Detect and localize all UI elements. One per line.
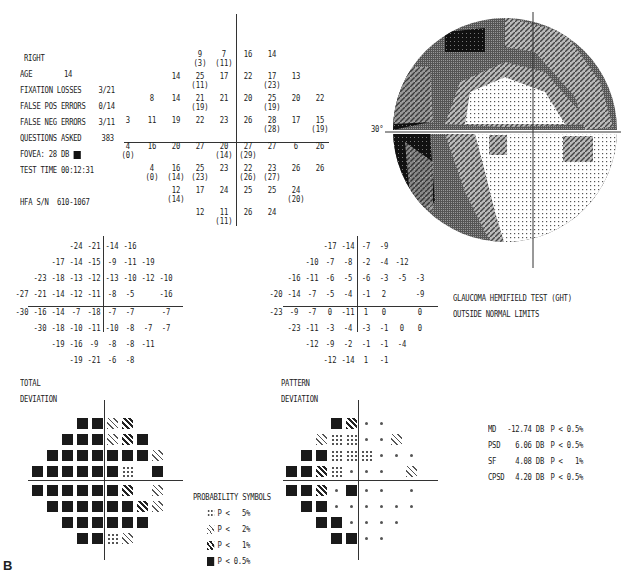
threshold-cell: 27	[191, 142, 209, 151]
probability-symbol	[77, 434, 88, 445]
deviation-cell: -7	[157, 308, 175, 317]
deviation-cell: -7	[321, 258, 339, 267]
deviation-cell: -30	[31, 324, 49, 333]
probability-symbol	[350, 521, 353, 524]
threshold-cell: 22(26)	[239, 164, 257, 181]
threshold-cell: 20(14)	[215, 142, 233, 159]
probability-symbol	[62, 501, 73, 512]
legend-item: P < 2%	[207, 524, 274, 540]
probability-symbol	[122, 485, 133, 496]
threshold-cell: 13	[287, 72, 305, 81]
index-probability: P < 0.5%	[550, 424, 583, 435]
threshold-cell: 26	[311, 164, 329, 173]
threshold-cell: 25(11)	[191, 72, 209, 89]
probability-symbol	[122, 434, 133, 445]
deviation-cell: -17	[321, 242, 339, 251]
threshold-cell: 25	[239, 186, 257, 195]
threshold-cell: 17	[215, 72, 233, 81]
probability-symbol	[365, 521, 368, 524]
deviation-cell: -8	[339, 258, 357, 267]
probability-symbol	[92, 434, 103, 445]
pd-horizontal-axis	[283, 306, 438, 307]
probability-symbol	[380, 521, 383, 524]
deviation-cell: -9	[321, 340, 339, 349]
probability-symbol	[346, 485, 357, 496]
probability-symbol	[92, 485, 103, 496]
deviation-cell: -7	[121, 308, 139, 317]
probability-symbol	[77, 450, 88, 461]
probability-symbol	[380, 470, 383, 473]
probability-symbol	[122, 517, 133, 528]
deviation-cell: 1	[357, 356, 375, 365]
index-probability: P < 1%	[550, 456, 583, 467]
deviation-cell: -10	[303, 258, 321, 267]
deviation-cell: -7	[139, 324, 157, 333]
probability-symbol	[395, 505, 398, 508]
index-name: SF	[488, 456, 496, 466]
probability-symbol	[62, 466, 73, 477]
deviation-cell: -14	[285, 290, 303, 299]
probability-symbol	[137, 434, 148, 445]
probability-symbol	[286, 466, 297, 477]
probability-symbol	[380, 537, 383, 540]
probability-symbol	[77, 466, 88, 477]
probability-symbol	[346, 450, 357, 461]
threshold-cell: 22	[239, 72, 257, 81]
probability-symbol	[406, 466, 417, 477]
probability-symbol	[331, 434, 342, 445]
probability-symbol	[365, 470, 368, 473]
deviation-cell: -2	[357, 258, 375, 267]
deviation-cell: -3	[357, 324, 375, 333]
deviation-cell: -14	[339, 356, 357, 365]
threshold-cell: 3	[119, 116, 137, 125]
probability-symbol	[152, 450, 163, 461]
probability-symbol	[47, 485, 58, 496]
probability-symbol	[122, 450, 133, 461]
probability-symbol	[331, 450, 342, 461]
threshold-cell: 20	[239, 94, 257, 103]
probability-symbol	[331, 533, 342, 544]
threshold-cell: 23	[215, 116, 233, 125]
probability-s1-icon	[207, 541, 214, 550]
probability-symbol	[62, 434, 73, 445]
deviation-cell: -23	[31, 274, 49, 283]
legend-title: PROBABILITY SYMBOLS	[193, 492, 271, 508]
index-row-cpsd: CPSD4.20 DBP < 0.5%	[488, 472, 504, 488]
probability-symbol	[107, 466, 118, 477]
threshold-cell: 15(19)	[311, 116, 329, 133]
threshold-cell: 9(3)	[191, 50, 209, 67]
deviation-cell: -11	[85, 290, 103, 299]
deviation-cell: -8	[103, 290, 121, 299]
total-deviation-title-1: TOTAL	[20, 378, 40, 389]
tdp-horizontal-axis	[28, 480, 183, 481]
threshold-cell: 24(20)	[287, 186, 305, 203]
deviation-cell: -7	[67, 308, 85, 317]
deviation-cell: -6	[321, 274, 339, 283]
threshold-cell: 16	[239, 50, 257, 59]
deviation-cell: -11	[139, 340, 157, 349]
ght-result: OUTSIDE NORMAL LIMITS	[453, 309, 539, 320]
threshold-cell: 22	[311, 94, 329, 103]
figure-label: B	[3, 558, 12, 573]
deviation-cell: -23	[267, 308, 285, 317]
deviation-cell: -21	[85, 242, 103, 251]
deviation-cell: -14	[67, 258, 85, 267]
threshold-cell: 4(0)	[119, 142, 137, 159]
global-indices: MD-12.74 DBP < 0.5%PSD6.06 DBP < 0.5%SF4…	[488, 424, 508, 488]
index-value: 6.06 DB	[506, 440, 544, 451]
probability-symbol	[380, 454, 383, 457]
index-probability: P < 0.5%	[550, 440, 583, 451]
probability-symbol	[137, 501, 148, 512]
probability-symbol	[107, 434, 118, 445]
deviation-cell: -8	[121, 356, 139, 365]
threshold-cell: 14	[167, 94, 185, 103]
threshold-cell: 25(19)	[263, 94, 281, 111]
threshold-cell: 21	[215, 94, 233, 103]
deviation-cell: -18	[49, 324, 67, 333]
probability-symbol	[77, 418, 88, 429]
probability-symbol	[77, 533, 88, 544]
legend-label: P < 5%	[217, 508, 250, 518]
deviation-cell: -12	[321, 356, 339, 365]
deviation-cell: -11	[85, 324, 103, 333]
threshold-cell: 26	[287, 164, 305, 173]
